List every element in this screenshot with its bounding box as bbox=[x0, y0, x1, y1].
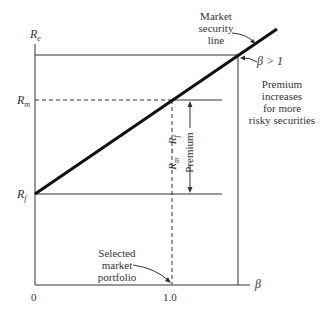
market-security-line bbox=[35, 29, 277, 194]
diagram-canvas bbox=[0, 0, 321, 322]
msl-annotation: Market security line bbox=[184, 10, 248, 46]
arrow-icon bbox=[240, 56, 245, 61]
beta-gt-one-label: β > 1 bbox=[257, 55, 283, 67]
spread-label: Rm − Rf Premium bbox=[166, 123, 195, 183]
origin-label: 0 bbox=[31, 291, 37, 303]
rm-label: Rm bbox=[17, 94, 30, 111]
arrow-down-icon bbox=[188, 187, 193, 193]
x-tick-label: 1.0 bbox=[163, 291, 177, 303]
y-axis-label: Re bbox=[30, 28, 41, 45]
rf-label: Rf bbox=[17, 188, 27, 205]
arrow-up-icon bbox=[188, 101, 193, 107]
selected-portfolio-label: Selected market portfolio bbox=[92, 247, 142, 283]
premium-note: Premium increases for more risky securit… bbox=[242, 78, 321, 126]
x-axis-label: β bbox=[255, 278, 261, 290]
